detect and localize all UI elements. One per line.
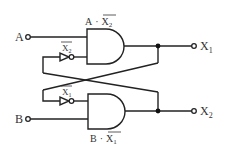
output-x1-terminal <box>192 44 197 49</box>
bottom-and-gate <box>88 94 125 129</box>
input-b-terminal <box>26 117 31 122</box>
top-gate-expression: A·X2 <box>85 16 113 29</box>
top-feedback-wire <box>43 57 60 73</box>
x1-junction-dot <box>156 44 161 49</box>
bottom-feedback-wire <box>43 90 60 101</box>
input-a-terminal <box>26 35 31 40</box>
top-and-gate <box>87 29 124 64</box>
logic-circuit-diagram: A B X1 X2 A·X2 B·X1 X2 X1 <box>0 0 227 153</box>
input-b-label: B <box>15 112 23 126</box>
top-inverter-bubble <box>69 55 74 60</box>
output-x2-terminal <box>192 109 197 114</box>
bottom-inverter-label: X1 <box>62 87 72 98</box>
input-a-label: A <box>15 30 24 44</box>
x2-junction-dot <box>156 109 161 114</box>
bottom-gate-expression: B·X1 <box>90 133 117 146</box>
top-inverter <box>60 53 69 61</box>
top-inverter-label: X2 <box>62 43 72 54</box>
output-x1-label: X1 <box>200 39 213 55</box>
bottom-inverter-bubble <box>69 99 74 104</box>
output-x2-label: X2 <box>200 104 213 120</box>
bottom-inverter <box>60 97 69 105</box>
